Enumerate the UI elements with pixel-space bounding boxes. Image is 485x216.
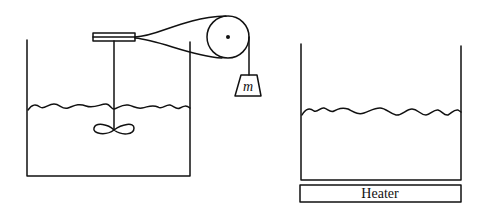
left-setup: m — [27, 16, 261, 176]
rope-upper — [135, 16, 226, 37]
mass-label: m — [243, 79, 253, 94]
left-container — [27, 40, 190, 176]
right-container — [301, 44, 461, 180]
right-setup: Heater — [300, 44, 461, 202]
right-water-surface — [302, 108, 461, 115]
pulley-axle — [226, 35, 230, 39]
heater-label: Heater — [361, 186, 399, 201]
diagram-canvas: m Heater — [0, 0, 485, 216]
rope-lower — [135, 38, 222, 58]
left-water-surface — [28, 104, 190, 110]
